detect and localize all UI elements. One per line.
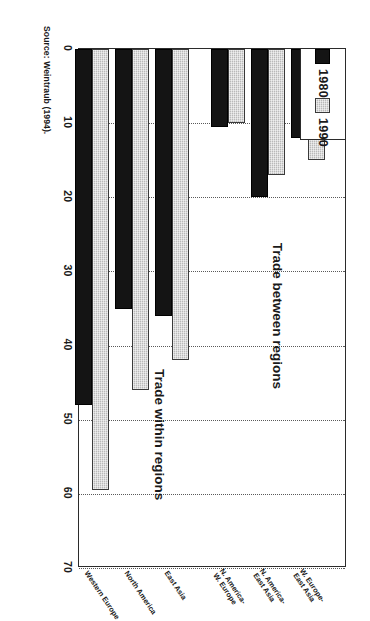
tick-label-50: 50	[62, 413, 74, 425]
category-label-0: Western Europe	[82, 570, 121, 621]
gridline-60	[79, 494, 345, 495]
category-label-5: W. Europe-East Asia	[291, 567, 327, 608]
group-label-trade-within-regions: Trade within regions	[152, 369, 167, 500]
bar-1990-2	[172, 49, 189, 360]
tick-label-40: 40	[62, 339, 74, 351]
tick-label-60: 60	[62, 487, 74, 499]
chart-legend: 1980 1990	[300, 48, 346, 140]
legend-swatch-1990	[316, 98, 331, 113]
bar-1990-3	[228, 49, 245, 123]
tick-label-70: 70	[62, 561, 74, 573]
bar-1980-2	[155, 49, 172, 316]
category-label-1: North America	[122, 570, 157, 617]
bar-1980-0	[75, 49, 92, 405]
bar-1990-1	[132, 49, 149, 390]
group-label-trade-between-regions: Trade between regions	[270, 243, 285, 389]
category-label-3: N. America-W. Europe	[211, 567, 248, 610]
bar-1980-1	[115, 49, 132, 309]
legend-label-1980: 1980	[316, 69, 330, 98]
bar-1980-4	[251, 49, 268, 197]
category-label-2: East Asia	[162, 570, 187, 602]
gridline-50	[79, 420, 345, 421]
source-note: Source: Weintraub (1994).	[42, 26, 52, 134]
gridline-40	[79, 346, 345, 347]
tick-label-20: 20	[62, 190, 74, 202]
category-label-4: N. America-East Asia	[251, 567, 288, 610]
tick-label-30: 30	[62, 264, 74, 276]
bar-1990-0	[92, 49, 109, 490]
bar-1990-4	[268, 49, 285, 175]
legend-swatch-1980	[316, 49, 331, 64]
legend-label-1990: 1990	[316, 118, 330, 147]
legend-entry-1980: 1980	[316, 49, 331, 98]
legend-entry-1990: 1990	[316, 98, 331, 147]
tick-label-10: 10	[62, 116, 74, 128]
tick-label-0: 0	[62, 45, 74, 51]
bar-1980-3	[211, 49, 228, 127]
